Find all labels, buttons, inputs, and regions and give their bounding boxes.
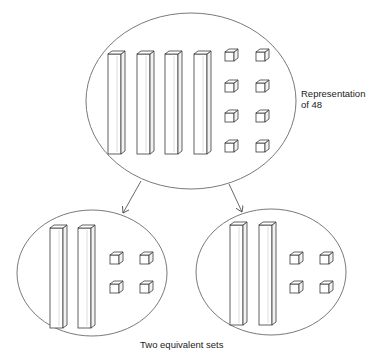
unit-cube — [256, 49, 269, 61]
arrow-left — [123, 181, 141, 213]
unit-cube — [320, 281, 333, 293]
tens-rod — [50, 225, 67, 328]
top-set-group — [86, 13, 296, 189]
unit-cube — [320, 252, 333, 264]
unit-cube — [140, 281, 153, 293]
unit-cube — [290, 252, 303, 264]
tens-rod — [259, 222, 276, 325]
unit-cube — [225, 110, 238, 122]
tens-rod — [108, 51, 125, 154]
representation-label-line2: of 48 — [301, 99, 365, 110]
base-ten-diagram — [0, 0, 381, 358]
tens-rod — [137, 51, 154, 154]
tens-rod — [165, 51, 182, 154]
tens-rod — [78, 225, 95, 328]
tens-rod — [194, 51, 211, 154]
unit-cube — [290, 281, 303, 293]
unit-cube — [110, 281, 123, 293]
representation-label: Representation of 48 — [301, 88, 365, 110]
caption: Two equivalent sets — [140, 339, 223, 350]
tens-rod — [230, 222, 247, 325]
representation-label-line1: Representation — [301, 88, 365, 99]
unit-cube — [140, 252, 153, 264]
unit-cube — [225, 140, 238, 152]
unit-cube — [225, 49, 238, 61]
unit-cube — [256, 110, 269, 122]
left-set-group — [17, 210, 167, 336]
arrow-right — [229, 184, 242, 212]
unit-cube — [256, 140, 269, 152]
unit-cube — [256, 80, 269, 92]
unit-cube — [225, 80, 238, 92]
right-set-group — [196, 209, 346, 335]
unit-cube — [110, 252, 123, 264]
